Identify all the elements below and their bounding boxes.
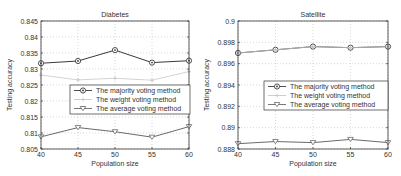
y-tick-label: 0.888 [217,146,235,153]
x-axis-label: Population size [289,160,337,168]
y-tick-label: 0.896 [217,60,235,67]
y-tick-label: 0.815 [20,114,38,121]
chart-title: Diabetes [101,11,129,18]
y-tick-label: 0.898 [217,39,235,46]
legend-label: The average voting method [96,105,181,113]
y-tick-label: 0.81 [24,130,38,137]
x-tick-label: 50 [309,151,317,158]
x-tick-label: 45 [272,151,280,158]
legend-label: The weight voting method [96,96,176,104]
legend-label: The average voting method [290,101,375,109]
x-tick-label: 55 [347,151,355,158]
y-tick-label: 0.89 [221,124,235,131]
chart-satellite: 0.8880.890.8920.8940.8960.8980.940455055… [203,11,392,168]
legend-label: The majority voting method [96,87,181,95]
chart-diabetes: 0.8050.810.8150.820.8250.830.8350.840.84… [6,11,193,168]
x-tick-label: 40 [234,151,242,158]
y-tick-label: 0.82 [24,98,38,105]
x-tick-label: 60 [384,151,392,158]
x-axis-label: Population size [91,160,139,168]
y-axis-label: Testing accuracy [6,58,14,111]
y-tick-label: 0.9 [225,18,235,25]
figure: 0.8050.810.8150.820.8250.830.8350.840.84… [0,0,401,176]
x-tick-label: 45 [74,151,82,158]
legend: The majority voting methodThe weight vot… [264,81,388,110]
chart-title: Satellite [301,11,326,18]
x-tick-label: 40 [37,151,45,158]
y-tick-label: 0.83 [24,66,38,73]
y-tick-label: 0.894 [217,82,235,89]
y-tick-label: 0.845 [20,18,38,25]
y-tick-label: 0.835 [20,50,38,57]
x-tick-label: 55 [148,151,156,158]
y-axis-label: Testing accuracy [203,58,211,111]
legend-label: The majority voting method [290,83,375,91]
y-tick-label: 0.805 [20,146,38,153]
x-tick-label: 50 [111,151,119,158]
y-tick-label: 0.84 [24,34,38,41]
x-tick-label: 60 [185,151,193,158]
y-tick-label: 0.825 [20,82,38,89]
y-tick-label: 0.892 [217,103,235,110]
legend: The majority voting methodThe weight vot… [70,85,190,114]
legend-label: The weight voting method [290,92,370,100]
